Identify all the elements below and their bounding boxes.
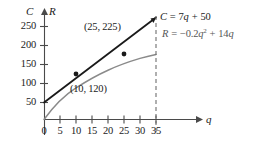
equation-revenue-eq: = — [171, 28, 177, 39]
equation-revenue-lhs: R — [162, 28, 168, 39]
equation-revenue-lin-coef: 14 — [218, 28, 228, 39]
intersection-points — [74, 52, 127, 77]
point-label-10-120: (10, 120) — [70, 84, 107, 95]
equation-cost: C=7q+50 — [160, 12, 211, 23]
x-axis-label-q: q — [206, 114, 212, 125]
y-tick-label-250: 250 — [14, 21, 36, 32]
y-axis-label-c: C — [26, 6, 33, 17]
equation-cost-plus: + — [192, 11, 198, 22]
x-tick-label-15: 15 — [84, 126, 100, 137]
x-tick-label-25: 25 — [116, 126, 132, 137]
y-tick-label-200: 200 — [14, 40, 36, 51]
equation-cost-const: 50 — [200, 11, 210, 22]
point-label-25-225: (25, 225) — [84, 22, 121, 33]
x-tick-label-30: 30 — [132, 126, 148, 137]
y-tick-label-150: 150 — [14, 59, 36, 70]
y-tick-label-100: 100 — [14, 78, 36, 89]
equation-cost-var: q — [184, 11, 189, 22]
equation-revenue-lin-var: q — [228, 28, 233, 39]
x-tick-label-0: 0 — [36, 126, 52, 137]
equation-revenue-exponent: 2 — [203, 27, 206, 35]
y-axis-label-r: R — [49, 6, 56, 17]
equation-revenue-plus: + — [210, 28, 216, 39]
x-tick-label-5: 5 — [52, 126, 68, 137]
x-tick-label-10: 10 — [68, 126, 84, 137]
equation-revenue-coef: −0.2 — [180, 28, 198, 39]
equation-revenue: R=−0.2q2+14q — [162, 29, 233, 40]
equation-cost-eq: = — [170, 11, 176, 22]
revenue-cost-chart: C R q 250 200 150 100 50 0 5 10 15 20 25… — [0, 0, 256, 151]
y-tick-label-50: 50 — [14, 97, 36, 108]
x-tick-label-20: 20 — [100, 126, 116, 137]
x-tick-label-35: 35 — [148, 126, 164, 137]
equation-cost-lhs: C — [160, 11, 167, 22]
